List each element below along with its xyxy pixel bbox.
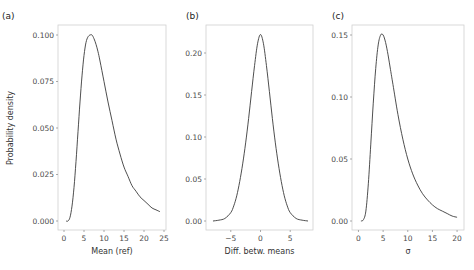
- y-tick-label: 0.000: [33, 217, 55, 226]
- x-tick-label: 20: [452, 234, 462, 243]
- x-tick-label: 0: [356, 234, 361, 243]
- y-tick-label: 0.10: [331, 93, 348, 102]
- panel-a: 0.0000.0250.0500.0750.1000510152025Mean …: [2, 11, 169, 256]
- x-tick-label: 10: [403, 234, 413, 243]
- x-axis-label: σ: [405, 247, 410, 256]
- x-tick-label: 15: [428, 234, 438, 243]
- x-tick-label: 20: [139, 234, 149, 243]
- panel-c: 0.000.050.100.1505101520σ(c): [331, 11, 464, 256]
- y-tick-label: 0.05: [331, 155, 348, 164]
- y-tick-label: 0.025: [33, 170, 55, 179]
- y-tick-label: 0.050: [33, 124, 55, 133]
- y-axis-label: Probability density: [6, 91, 15, 165]
- x-tick-label: 0: [62, 234, 67, 243]
- y-tick-label: 0.15: [185, 91, 202, 100]
- density-curve: [361, 34, 457, 221]
- y-tick-label: 0.15: [331, 31, 348, 40]
- x-tick-label: 25: [159, 234, 169, 243]
- y-tick-label: 0.10: [185, 133, 202, 142]
- x-axis-label: Diff. betw. means: [225, 247, 295, 256]
- x-tick-label: 5: [288, 234, 293, 243]
- x-tick-label: 5: [82, 234, 87, 243]
- density-curve: [213, 35, 308, 221]
- y-tick-label: 0.075: [33, 77, 55, 86]
- panel-label: (a): [2, 11, 15, 21]
- panel-label: (b): [186, 11, 199, 21]
- y-tick-label: 0.00: [185, 217, 202, 226]
- y-tick-label: 0.00: [331, 217, 348, 226]
- x-tick-label: 10: [99, 234, 109, 243]
- plot-frame: [206, 25, 313, 230]
- x-axis-label: Mean (ref): [91, 247, 132, 256]
- panel-b: 0.000.050.100.150.20−505Diff. betw. mean…: [185, 11, 313, 256]
- plot-frame: [352, 25, 464, 230]
- plot-frame: [58, 25, 166, 230]
- y-tick-label: 0.20: [185, 49, 202, 58]
- density-curve: [66, 35, 160, 222]
- y-tick-label: 0.05: [185, 175, 202, 184]
- x-tick-label: 0: [258, 234, 263, 243]
- figure-canvas: 0.0000.0250.0500.0750.1000510152025Mean …: [0, 0, 474, 270]
- x-tick-label: 15: [119, 234, 129, 243]
- x-tick-label: 5: [381, 234, 386, 243]
- x-tick-label: −5: [225, 234, 236, 243]
- panel-label: (c): [332, 11, 344, 21]
- y-tick-label: 0.100: [33, 31, 55, 40]
